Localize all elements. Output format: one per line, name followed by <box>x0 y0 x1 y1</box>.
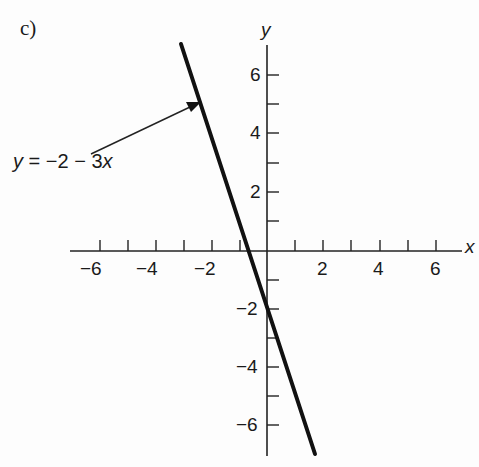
x-axis-label: x <box>465 236 475 258</box>
x-tick-label: 2 <box>317 258 328 280</box>
x-tick-label: −2 <box>194 258 216 280</box>
y-tick-label: 6 <box>250 64 261 86</box>
equation-label: y = −2 − 3x <box>13 150 113 173</box>
y-tick-label: −2 <box>236 298 258 320</box>
part-label: c) <box>20 16 36 41</box>
annotation-arrow <box>91 102 201 154</box>
y-tick-label: −6 <box>236 414 258 436</box>
y-tick-label: 2 <box>250 181 261 203</box>
y-axis-label: y <box>261 19 271 41</box>
y-tick-label: 4 <box>250 122 261 144</box>
graph-canvas <box>0 0 479 467</box>
x-tick-label: −4 <box>136 258 158 280</box>
y-tick-label: −4 <box>236 356 258 378</box>
var-x: x <box>103 150 113 172</box>
x-tick-label: 6 <box>430 258 441 280</box>
y-axis-ticks <box>267 75 279 425</box>
x-axis-ticks <box>100 240 436 251</box>
x-tick-label: 4 <box>373 258 384 280</box>
var-y: y <box>13 150 23 172</box>
x-tick-label: −6 <box>80 258 102 280</box>
